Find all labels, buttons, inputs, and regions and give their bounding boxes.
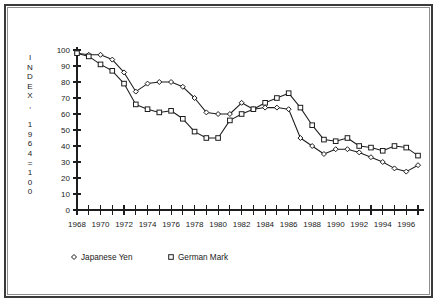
data-point-diamond	[345, 147, 350, 152]
data-point-diamond	[169, 80, 174, 85]
data-point-square	[98, 62, 103, 67]
legend-marker-diamond	[72, 255, 77, 260]
y-axis-title-char: 6	[28, 139, 33, 148]
data-point-square	[145, 107, 150, 112]
y-tick-label: 50	[61, 126, 70, 135]
x-tick-label: 1970	[92, 220, 110, 229]
y-tick-label: 60	[61, 110, 70, 119]
figure-inner-border: 0102030405060708090100196819701972197419…	[7, 7, 430, 295]
x-tick-label: 1986	[280, 220, 298, 229]
x-tick-label: 1980	[209, 220, 227, 229]
figure-outer-frame: 0102030405060708090100196819701972197419…	[4, 4, 433, 298]
data-point-square	[75, 51, 80, 56]
y-axis-title-char: N	[27, 63, 33, 72]
legend-label-japanese-yen[interactable]: Japanese Yen	[81, 253, 133, 262]
data-point-square	[157, 110, 162, 115]
data-point-diamond	[392, 166, 397, 171]
y-tick-label: 10	[61, 190, 70, 199]
data-point-square	[181, 117, 186, 122]
x-tick-label: 1972	[115, 220, 133, 229]
y-axis-title-char: 0	[28, 178, 33, 187]
data-point-diamond	[216, 112, 221, 117]
data-point-square	[404, 145, 409, 150]
data-point-square	[133, 102, 138, 107]
data-point-square	[204, 136, 209, 141]
y-axis-title-char: 1	[28, 168, 33, 177]
data-point-square	[86, 54, 91, 59]
data-point-diamond	[157, 80, 162, 85]
data-point-square	[369, 145, 374, 150]
legend-marker-square	[169, 255, 174, 260]
data-point-square	[298, 105, 303, 110]
y-tick-label: 100	[57, 46, 71, 55]
data-point-diamond	[380, 160, 385, 165]
data-point-square	[322, 137, 327, 142]
y-axis-title-char: 0	[28, 187, 33, 196]
data-point-square	[122, 81, 127, 86]
index-line-chart: 0102030405060708090100196819701972197419…	[8, 8, 431, 296]
data-point-square	[345, 136, 350, 141]
y-tick-label: 70	[61, 94, 70, 103]
x-tick-label: 1996	[397, 220, 415, 229]
data-point-square	[380, 149, 385, 154]
y-tick-label: 90	[61, 62, 70, 71]
y-axis-title-char: E	[27, 82, 32, 91]
data-point-diamond	[368, 155, 373, 160]
x-tick-label: 1974	[139, 220, 157, 229]
series-line-japanese-yen	[77, 53, 418, 171]
series-line-german-mark	[77, 53, 418, 155]
x-tick-label: 1990	[327, 220, 345, 229]
legend-label-german-mark[interactable]: German Mark	[178, 253, 229, 262]
data-point-square	[310, 123, 315, 128]
x-tick-label: 1976	[162, 220, 180, 229]
x-tick-label: 1984	[256, 220, 274, 229]
data-point-square	[275, 96, 280, 101]
data-point-square	[263, 101, 268, 106]
data-point-diamond	[263, 105, 268, 110]
y-axis-title-char: 4	[28, 149, 33, 158]
x-tick-label: 1992	[350, 220, 368, 229]
x-tick-label: 1978	[186, 220, 204, 229]
y-tick-label: 0	[66, 206, 71, 215]
x-tick-label: 1968	[68, 220, 86, 229]
y-tick-label: 80	[61, 78, 70, 87]
data-point-square	[357, 144, 362, 149]
data-point-square	[333, 139, 338, 144]
data-point-diamond	[286, 107, 291, 112]
x-tick-label: 1982	[233, 220, 251, 229]
data-point-square	[251, 107, 256, 112]
data-point-square	[169, 109, 174, 114]
x-tick-label: 1994	[374, 220, 392, 229]
y-axis-title-char: D	[27, 72, 33, 81]
x-tick-label: 1988	[303, 220, 321, 229]
y-axis-title-char: ,	[29, 101, 31, 110]
y-tick-label: 30	[61, 158, 70, 167]
data-point-square	[216, 136, 221, 141]
data-point-diamond	[357, 150, 362, 155]
y-axis-title-char: 9	[28, 130, 33, 139]
data-point-diamond	[98, 52, 103, 57]
data-point-diamond	[274, 105, 279, 110]
data-point-square	[228, 118, 233, 123]
data-point-diamond	[416, 163, 421, 168]
y-axis-title-char: 1	[28, 120, 33, 129]
y-axis-title-char: =	[28, 159, 33, 168]
data-point-square	[239, 112, 244, 117]
data-point-square	[416, 153, 421, 158]
y-axis-title-char: X	[27, 91, 33, 100]
data-point-square	[392, 144, 397, 149]
y-tick-label: 20	[61, 174, 70, 183]
data-point-square	[192, 129, 197, 134]
data-point-square	[286, 91, 291, 96]
data-point-square	[110, 69, 115, 74]
data-point-diamond	[333, 147, 338, 152]
y-tick-label: 40	[61, 142, 70, 151]
y-axis-title-char: I	[29, 53, 31, 62]
data-point-diamond	[404, 169, 409, 174]
